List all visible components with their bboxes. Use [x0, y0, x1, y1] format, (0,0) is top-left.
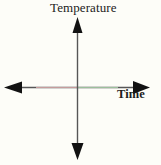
arrowhead-up-icon: [73, 17, 83, 33]
axes-graphic: [0, 0, 161, 165]
arrowhead-down-icon: [72, 143, 84, 160]
temperature-time-axes-diagram: Temperature Time: [0, 0, 161, 165]
y-axis-label: Temperature: [50, 1, 117, 14]
arrowhead-left-icon: [4, 82, 22, 94]
x-axis-label: Time: [117, 88, 145, 101]
